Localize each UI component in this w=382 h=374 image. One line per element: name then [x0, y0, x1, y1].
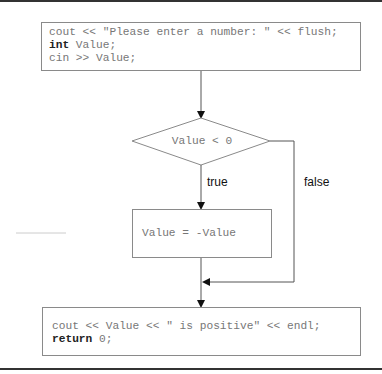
true-edge-label: true [207, 175, 228, 189]
code-line: cin >> Value; [49, 52, 360, 65]
end-code-box: cout << Value << " is positive" << endl;… [42, 307, 361, 356]
keyword: return [52, 333, 92, 345]
keyword: int [49, 39, 69, 51]
code-line: cout << Value << " is positive" << endl; [52, 320, 360, 333]
decision-label: Value < 0 [150, 135, 254, 147]
start-code-box: cout << "Please enter a number: " << flu… [41, 22, 361, 71]
code-line: int Value; [49, 39, 360, 52]
negate-code-box: Value = -Value [132, 209, 272, 258]
code-line: return 0; [52, 333, 360, 346]
code-line: cout << "Please enter a number: " << flu… [49, 26, 360, 39]
false-edge-label: false [304, 175, 329, 189]
